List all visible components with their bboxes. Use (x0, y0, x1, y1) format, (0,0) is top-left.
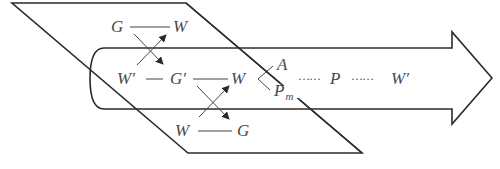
label-a: A (277, 56, 287, 73)
label-w-bottom: W (175, 122, 189, 139)
dotted-link-1: …… (298, 70, 320, 82)
label-w-prime-end: W′ (391, 70, 409, 87)
label-pm: Pm (274, 82, 292, 99)
label-w-mid: W (231, 70, 245, 87)
label-p: P (330, 70, 340, 87)
label-g-prime: G′ (170, 70, 186, 87)
dotted-link-2: …… (351, 70, 373, 82)
flow-arrow-shape (90, 32, 492, 124)
diagram-lines (0, 0, 500, 169)
label-g-bottom: G (237, 122, 249, 139)
label-pm-sub: m (285, 90, 293, 102)
diagram-canvas: G W W′ G′ W A Pm …… P …… W′ W G (0, 0, 500, 169)
label-pm-main: P (274, 81, 284, 100)
label-w-top: W (173, 18, 187, 35)
label-g-top: G (111, 18, 123, 35)
label-w-prime: W′ (117, 70, 135, 87)
